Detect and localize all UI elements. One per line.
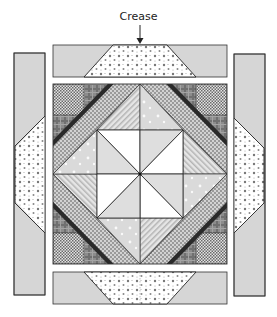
pinwheel — [97, 130, 183, 218]
top-strip — [53, 45, 227, 77]
bottom-strip — [53, 272, 227, 304]
center-block — [20, 51, 260, 297]
left-strip — [14, 53, 45, 295]
down-arrow-icon — [137, 25, 144, 44]
quilt-diagram — [0, 0, 277, 317]
right-strip — [234, 54, 265, 296]
